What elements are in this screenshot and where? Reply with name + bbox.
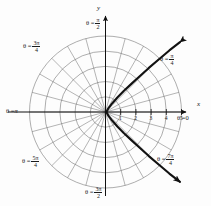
theta-label-5pi-over-4-prefix: θ = bbox=[22, 157, 30, 164]
grid-ray-255deg bbox=[86, 112, 106, 185]
theta-label-7pi-over-4-prefix: θ = bbox=[157, 155, 165, 162]
fraction-numerator: 7π bbox=[166, 153, 174, 160]
polar-plot-figure: y x θ =0 θ =π4 θ =π2 θ =3π4 θ =π θ =5π4 … bbox=[0, 0, 211, 206]
grid-ray-150deg bbox=[40, 74, 106, 112]
grid-ray-165deg bbox=[32, 92, 105, 112]
fraction-pi-over-2: π2 bbox=[95, 17, 100, 31]
fraction-denominator: 4 bbox=[169, 60, 174, 66]
fraction-5pi-over-4: 5π4 bbox=[31, 155, 39, 169]
grid-ray-345deg bbox=[106, 112, 179, 132]
theta-label-3pi-over-2-prefix: θ = bbox=[85, 188, 93, 195]
theta-label-3pi-over-4: θ =3π4 bbox=[23, 40, 40, 54]
grid-ray-210deg bbox=[40, 112, 106, 150]
fraction-denominator: 2 bbox=[94, 193, 102, 199]
grid-ray-195deg bbox=[32, 112, 105, 132]
theta-label-0-value: 0 bbox=[185, 114, 188, 121]
fraction-3pi-over-2: 3π2 bbox=[94, 186, 102, 200]
x-tick-label-4: 4 bbox=[165, 115, 168, 121]
theta-label-pi-over-2-prefix: θ = bbox=[86, 19, 94, 26]
grid-ray-225deg bbox=[52, 112, 106, 166]
fraction-numerator: π bbox=[95, 17, 100, 24]
y-axis-label: y bbox=[97, 4, 100, 12]
fraction-numerator: π bbox=[169, 53, 174, 60]
fraction-denominator: 2 bbox=[95, 24, 100, 30]
x-axis-label: x bbox=[197, 100, 200, 108]
grid-ray-105deg bbox=[86, 39, 106, 112]
theta-label-pi-over-4: θ =π4 bbox=[160, 53, 174, 67]
fraction-7pi-over-4: 7π4 bbox=[166, 153, 174, 167]
theta-label-pi-value: π bbox=[14, 107, 17, 114]
x-tick-label-1: 1 bbox=[119, 115, 122, 121]
grid-ray-135deg bbox=[52, 58, 106, 112]
theta-label-3pi-over-4-prefix: θ = bbox=[23, 42, 31, 49]
fraction-numerator: 5π bbox=[31, 155, 39, 162]
theta-label-pi: θ =π bbox=[6, 108, 18, 115]
polar-grid-canvas bbox=[0, 0, 211, 206]
fraction-3pi-over-4: 3π4 bbox=[32, 40, 40, 54]
x-tick-label-3: 3 bbox=[150, 115, 153, 121]
theta-label-7pi-over-4: θ =7π4 bbox=[157, 153, 174, 167]
grid-ray-30deg bbox=[106, 74, 172, 112]
x-tick-label-5: 5 bbox=[180, 115, 183, 121]
grid-ray-120deg bbox=[68, 46, 106, 112]
theta-label-pi-over-4-prefix: θ = bbox=[160, 55, 168, 62]
fraction-numerator: 3π bbox=[94, 186, 102, 193]
grid-ray-15deg bbox=[106, 92, 179, 112]
x-tick-label-2: 2 bbox=[134, 115, 137, 121]
fraction-denominator: 4 bbox=[32, 47, 40, 53]
fraction-denominator: 4 bbox=[31, 162, 39, 168]
theta-label-5pi-over-4: θ =5π4 bbox=[22, 155, 39, 169]
theta-label-3pi-over-2: θ =3π2 bbox=[85, 186, 102, 200]
fraction-numerator: 3π bbox=[32, 40, 40, 47]
theta-label-pi-over-2: θ =π2 bbox=[86, 17, 100, 31]
grid-ray-330deg bbox=[106, 112, 172, 150]
fraction-pi-over-4: π4 bbox=[169, 53, 174, 67]
fraction-denominator: 4 bbox=[166, 160, 174, 166]
grid-ray-240deg bbox=[68, 112, 106, 178]
